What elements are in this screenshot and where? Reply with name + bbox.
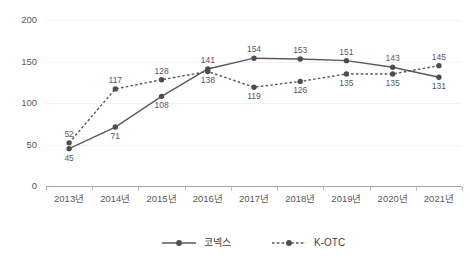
data-label: 145 (432, 52, 446, 62)
data-point (113, 124, 118, 129)
x-axis-tick-label: 2015년 (146, 193, 176, 204)
y-axis-tick-label: 150 (21, 56, 37, 67)
data-point (113, 86, 118, 91)
data-label: 135 (386, 78, 400, 88)
x-axis (46, 187, 463, 191)
data-point (390, 65, 395, 70)
data-point (390, 71, 395, 76)
data-label: 141 (201, 55, 215, 65)
data-label: 138 (201, 75, 215, 85)
x-axis-tick-label: 2017년 (239, 193, 269, 204)
data-point (251, 55, 256, 60)
legend-swatch-marker (286, 240, 292, 246)
series-line-K-OTC (69, 66, 439, 143)
data-label: 135 (339, 78, 353, 88)
data-point (205, 69, 210, 74)
y-axis-tick-labels: 050100150200 (21, 14, 37, 191)
data-point (344, 58, 349, 63)
data-point (159, 94, 164, 99)
data-label: 151 (339, 47, 353, 57)
data-point (251, 85, 256, 90)
data-point (159, 77, 164, 82)
chart-canvas: 050100150200 2013년2014년2015년2016년2017년20… (0, 0, 470, 261)
data-point (344, 71, 349, 76)
data-point (436, 75, 441, 80)
y-axis-tick-label: 50 (26, 139, 37, 150)
data-label: 131 (432, 81, 446, 91)
data-point (66, 140, 71, 145)
data-label: 71 (111, 131, 121, 141)
x-axis-tick-label: 2013년 (54, 193, 84, 204)
data-label: 126 (293, 85, 307, 95)
line-chart: 050100150200 2013년2014년2015년2016년2017년20… (0, 0, 470, 261)
x-axis-tick-label: 2019년 (331, 193, 361, 204)
x-axis-tick-label: 2016년 (193, 193, 223, 204)
y-axis-tick-label: 100 (21, 97, 37, 108)
x-axis-tick-label: 2014년 (100, 193, 130, 204)
x-axis-tick-label: 2020년 (378, 193, 408, 204)
data-point (66, 146, 71, 151)
data-label: 153 (293, 45, 307, 55)
data-label: 154 (247, 44, 261, 54)
data-label: 119 (247, 91, 261, 101)
chart-legend: 코넥스K-OTC (162, 237, 345, 248)
legend-label: K-OTC (314, 237, 345, 248)
data-label: 143 (386, 53, 400, 63)
data-label: 52 (64, 129, 74, 139)
data-label: 117 (109, 75, 123, 85)
y-axis-tick-label: 200 (21, 14, 37, 25)
data-point (298, 56, 303, 61)
data-label: 128 (154, 66, 168, 76)
y-axis-tick-label: 0 (32, 180, 37, 191)
x-axis-tick-label: 2018년 (285, 193, 315, 204)
data-label: 108 (154, 100, 168, 110)
x-axis-tick-labels: 2013년2014년2015년2016년2017년2018년2019년2020년… (54, 193, 454, 204)
data-label: 45 (64, 153, 74, 163)
legend-label: 코넥스 (204, 237, 231, 248)
x-axis-tick-label: 2021년 (424, 193, 454, 204)
data-point (436, 63, 441, 68)
data-point (298, 79, 303, 84)
legend-swatch-marker (176, 240, 182, 246)
